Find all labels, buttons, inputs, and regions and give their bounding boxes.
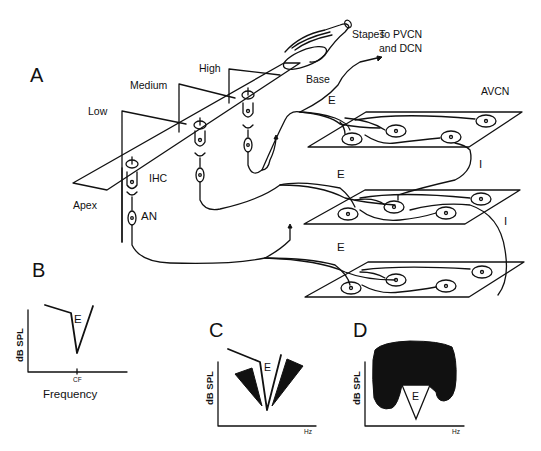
label-ihc: IHC: [149, 172, 168, 184]
diagram-svg: A Low Medium High Stapes Base Apex: [0, 0, 541, 451]
label-e-1: E: [328, 94, 336, 106]
label-i-2: I: [504, 215, 507, 227]
label-low: Low: [88, 105, 108, 117]
panel-d-ylabel: dB SPL: [351, 371, 362, 405]
avcn-layer-1: [308, 112, 522, 200]
panel-c-xlabel: Hz: [304, 428, 312, 435]
hair-cell-low: [126, 157, 138, 225]
label-e-3: E: [337, 241, 345, 253]
label-i-1: I: [479, 158, 482, 170]
nerve-fibers: [132, 56, 395, 285]
panel-b-label: B: [32, 259, 45, 281]
hair-cell-medium: [194, 118, 206, 182]
label-avcn: AVCN: [481, 85, 509, 97]
label-and-dcn: and DCN: [379, 42, 422, 54]
basilar-membrane: [73, 63, 300, 190]
label-to-pvcn: To PVCN: [379, 28, 422, 40]
panel-a-label: A: [30, 64, 44, 86]
stapes-icon: [281, 19, 353, 74]
panel-c-ylabel: dB SPL: [204, 371, 215, 405]
panel-b-xlabel: Frequency: [43, 388, 98, 400]
cochlear-nucleus-diagram: A Low Medium High Stapes Base Apex: [0, 0, 541, 451]
label-medium: Medium: [130, 79, 168, 91]
panel-d-xlabel: Hz: [452, 428, 460, 435]
label-apex: Apex: [73, 199, 98, 211]
panel-d-tuning-curve: [365, 341, 464, 426]
label-an: AN: [141, 210, 157, 222]
label-high: High: [199, 62, 221, 74]
panel-c-label: C: [209, 319, 223, 341]
panel-c-region-e: E: [264, 361, 271, 373]
panel-b-xtick-cf: CF: [73, 376, 82, 383]
label-e-2: E: [337, 168, 345, 180]
panel-b-ylabel: dB SPL: [14, 328, 25, 362]
panel-d-region-e: E: [412, 390, 419, 402]
panel-d-label: D: [353, 319, 367, 341]
label-base: Base: [306, 73, 330, 85]
panel-b-region-e: E: [74, 313, 82, 325]
